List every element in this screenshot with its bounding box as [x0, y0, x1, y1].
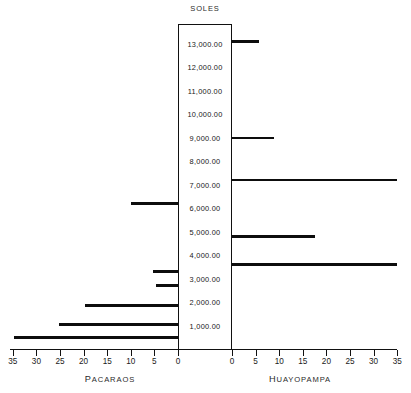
x-axis-tick [13, 350, 14, 356]
x-axis-tick-label: 30 [369, 357, 378, 366]
bar-left [59, 323, 178, 326]
x-axis-tick [326, 350, 327, 356]
x-axis-tick-label: 15 [298, 357, 307, 366]
x-axis-tick-label: 0 [176, 357, 181, 366]
y-axis-tick-label: 12,000.00 [178, 63, 232, 72]
caption-rest: ACARAOS [92, 375, 135, 384]
left-series-caption: PACARAOS [85, 374, 135, 384]
tornado-chart: SOLES 13,000.0012,000.0011,000.0010,000.… [0, 0, 411, 393]
bar-left [85, 304, 178, 307]
y-axis-tick-label: 3,000.00 [178, 274, 232, 283]
x-axis-tick [154, 350, 155, 356]
x-axis-tick [60, 350, 61, 356]
y-axis-tick-label: 11,000.00 [178, 86, 232, 95]
y-axis-tick-label: 1,000.00 [178, 321, 232, 330]
x-axis-tick [232, 350, 233, 356]
x-axis-tick [279, 350, 280, 356]
x-axis-tick [107, 350, 108, 356]
x-axis-tick [350, 350, 351, 356]
bar-left [153, 270, 178, 273]
y-axis-tick-label: 7,000.00 [178, 180, 232, 189]
caption-initial: P [85, 374, 92, 384]
chart-title: SOLES [178, 4, 232, 13]
y-axis-tick-label: 4,000.00 [178, 251, 232, 260]
x-axis-tick [36, 350, 37, 356]
bar-left [156, 284, 178, 287]
y-axis-tick-label: 2,000.00 [178, 298, 232, 307]
x-axis-tick [303, 350, 304, 356]
x-axis-tick-label: 10 [126, 357, 135, 366]
x-axis-tick [374, 350, 375, 356]
x-axis-tick-label: 35 [393, 357, 402, 366]
y-axis-tick-label: 8,000.00 [178, 157, 232, 166]
x-axis-tick-label: 35 [8, 357, 17, 366]
x-axis-tick-label: 25 [55, 357, 64, 366]
y-axis-tick-label: 10,000.00 [178, 110, 232, 119]
x-axis-tick-label: 0 [230, 357, 235, 366]
x-axis-tick [178, 350, 179, 356]
caption-initial: H [269, 374, 277, 384]
bar-right [232, 179, 397, 182]
y-axis-tick-label: 6,000.00 [178, 204, 232, 213]
x-axis-tick [256, 350, 257, 356]
x-axis-tick [131, 350, 132, 356]
x-axis-tick-label: 5 [253, 357, 258, 366]
x-axis-tick-label: 15 [103, 357, 112, 366]
bar-left [131, 202, 178, 205]
y-axis-tick-label: 9,000.00 [178, 133, 232, 142]
x-axis-tick-label: 10 [275, 357, 284, 366]
bar-right [232, 137, 274, 140]
x-axis-tick-label: 20 [79, 357, 88, 366]
chart-title-wrap: SOLES [178, 4, 232, 13]
x-axis-tick-label: 20 [322, 357, 331, 366]
y-axis-tick-label: 13,000.00 [178, 40, 232, 49]
bar-right [232, 40, 259, 43]
bar-right [232, 235, 315, 238]
x-axis-tick-label: 5 [152, 357, 157, 366]
caption-rest: UAYOPAMPA [277, 375, 332, 384]
x-axis-baseline [10, 349, 397, 350]
x-axis-tick-label: 30 [32, 357, 41, 366]
right-series-caption: HUAYOPAMPA [269, 374, 331, 384]
x-axis-tick [397, 350, 398, 356]
y-axis-tick-label: 5,000.00 [178, 227, 232, 236]
x-axis-tick-label: 25 [345, 357, 354, 366]
bar-left [14, 336, 178, 339]
y-axis-labels: 13,000.0012,000.0011,000.0010,000.009,00… [178, 24, 232, 350]
x-axis-tick [84, 350, 85, 356]
bar-right [232, 263, 397, 266]
